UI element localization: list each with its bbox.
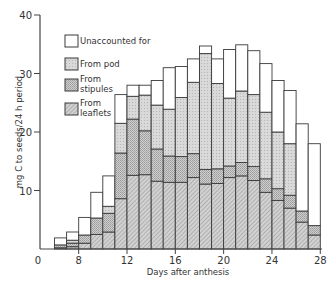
bar-day-20 (224, 50, 236, 250)
bar-day-23 (260, 64, 272, 249)
bar-segment-unaccounted-for (296, 124, 308, 211)
bar-day-26 (296, 124, 308, 249)
bar-segment-unaccounted-for (175, 67, 187, 98)
bar-segment-from-stipules (175, 157, 187, 183)
bar-day-27 (308, 144, 320, 249)
legend-swatch (65, 58, 78, 70)
bar-segment-unaccounted-for (79, 217, 91, 235)
bar-day-12 (127, 85, 139, 249)
bar-segment-unaccounted-for (236, 45, 248, 91)
bar-segment-from-pod (127, 96, 139, 119)
bar-day-9 (91, 192, 103, 249)
bar-segment-from-stipules (139, 131, 151, 175)
stacked-bar-chart: 10203040 081216202428 mg C to seeds/24 h… (0, 0, 336, 285)
bar-segment-unaccounted-for (308, 144, 320, 226)
x-tick-label: 20 (217, 255, 230, 266)
bar-segment-unaccounted-for (272, 81, 284, 133)
bar-segment-from-leaflets (236, 176, 248, 249)
bar-segment-unaccounted-for (115, 95, 127, 124)
bar-segment-from-leaflets (296, 222, 308, 249)
bar-segment-unaccounted-for (284, 91, 296, 144)
bar-day-11 (115, 95, 127, 249)
legend-item: Fromstipules (65, 74, 113, 94)
bar-day-16 (175, 67, 187, 250)
bar-segment-from-pod (115, 123, 127, 153)
bar-segment-from-stipules (308, 226, 320, 235)
x-tick-label: 28 (314, 255, 327, 266)
x-tick-label: 16 (169, 255, 182, 266)
bar-day-6 (55, 238, 67, 249)
bar-segment-from-leaflets (127, 175, 139, 249)
bar-day-8 (79, 217, 91, 249)
bar-segment-from-pod (139, 95, 151, 131)
x-tick-label: 24 (266, 255, 279, 266)
bar-segment-from-stipules (224, 166, 236, 178)
bar-day-21 (236, 45, 248, 249)
bar-segment-unaccounted-for (55, 238, 67, 245)
bar-segment-from-leaflets (79, 243, 91, 249)
bar-segment-from-stipules (91, 218, 103, 234)
bar-day-17 (187, 59, 199, 249)
bar-day-22 (248, 51, 260, 249)
legend-label: From (80, 74, 101, 84)
bar-day-15 (163, 68, 175, 249)
bar-segment-from-leaflets (151, 181, 163, 249)
bar-segment-from-stipules (212, 169, 224, 184)
bar-segment-from-stipules (236, 162, 248, 176)
y-axis-title: mg C to seeds/24 h period (14, 76, 24, 189)
legend-item: From pod (65, 58, 120, 70)
bar-day-14 (151, 81, 163, 250)
bar-day-25 (284, 91, 296, 250)
bar-segment-from-leaflets (224, 178, 236, 249)
bar-segment-from-stipules (187, 154, 199, 178)
bar-segment-from-leaflets (260, 192, 272, 249)
y-tick-label: 40 (19, 10, 32, 21)
legend-swatch (65, 79, 78, 91)
bar-segment-unaccounted-for (248, 51, 260, 95)
bar-segment-from-pod (151, 105, 163, 149)
bar-segment-from-stipules (163, 156, 175, 182)
legend-label: leaflets (80, 108, 112, 118)
bar-segment-from-pod (175, 98, 187, 157)
bar-segment-from-pod (212, 83, 224, 168)
bar-segment-from-pod (187, 82, 199, 153)
bar-day-24 (272, 81, 284, 250)
bar-segment-from-pod (103, 206, 115, 213)
x-axis-title: Days after anthesis (147, 267, 230, 277)
bar-segment-unaccounted-for (103, 176, 115, 206)
bar-segment-from-pod (284, 144, 296, 196)
legend-label: From pod (80, 59, 120, 69)
legend-swatch (65, 35, 78, 47)
bar-segment-unaccounted-for (127, 85, 139, 96)
bar-segment-unaccounted-for (91, 192, 103, 218)
bar-segment-from-leaflets (163, 182, 175, 249)
bar-segment-from-leaflets (248, 181, 260, 249)
bar-segment-from-leaflets (187, 178, 199, 249)
bar-day-18 (200, 46, 212, 249)
x-tick-label: 12 (121, 255, 134, 266)
bar-segment-from-pod (163, 109, 175, 156)
bar-segment-from-stipules (67, 243, 79, 247)
bar-segment-from-leaflets (103, 232, 115, 249)
legend-label: stipules (80, 84, 113, 94)
bar-segment-unaccounted-for (67, 232, 79, 240)
bar-segment-unaccounted-for (224, 50, 236, 99)
bar-segment-from-stipules (151, 149, 163, 181)
bar-segment-from-stipules (248, 167, 260, 181)
legend-item: Unaccounted for (65, 35, 151, 47)
x-tick-label: 0 (35, 255, 41, 266)
bar-segment-unaccounted-for (151, 81, 163, 106)
bar-segment-from-leaflets (139, 175, 151, 249)
bar-segment-from-leaflets (284, 208, 296, 249)
bar-segment-from-stipules (127, 119, 139, 175)
x-tick-label: 8 (75, 255, 81, 266)
bar-segment-from-leaflets (272, 200, 284, 249)
x-axis: 081216202428 (35, 249, 327, 266)
bar-day-19 (212, 59, 224, 249)
bar-segment-from-leaflets (115, 199, 127, 249)
legend-label: From (80, 98, 101, 108)
bar-segment-from-leaflets (308, 235, 320, 249)
bar-day-7 (67, 232, 79, 249)
bar-day-10 (103, 176, 115, 249)
bar-segment-unaccounted-for (212, 59, 224, 84)
